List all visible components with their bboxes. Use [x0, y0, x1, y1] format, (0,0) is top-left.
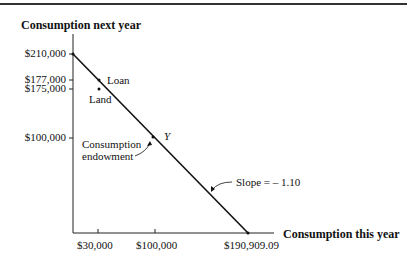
land-label: Land: [89, 94, 112, 105]
y-tick-210000: $210,000: [14, 48, 66, 59]
slope-label: Slope = – 1.10: [236, 177, 300, 188]
endowment-label-2: endowment: [82, 151, 133, 162]
x-tick-100000: $100,000: [136, 240, 177, 251]
x-tick-30000: $30,000: [77, 240, 113, 251]
y-tick-100000: $100,000: [14, 132, 66, 143]
land-point: [98, 88, 101, 91]
y-point-label: Y: [164, 131, 170, 142]
y-axis-title: Consumption next year: [21, 19, 141, 31]
y-tick-175000: $175,000: [14, 83, 66, 94]
loan-label: Loan: [107, 75, 130, 86]
endowment-point: [152, 136, 155, 139]
x-tick-190909: $190,909.09: [224, 240, 279, 251]
endowment-label-1: Consumption: [82, 139, 141, 150]
loan-point: [98, 79, 101, 82]
x-axis-title: Consumption this year: [283, 228, 400, 240]
